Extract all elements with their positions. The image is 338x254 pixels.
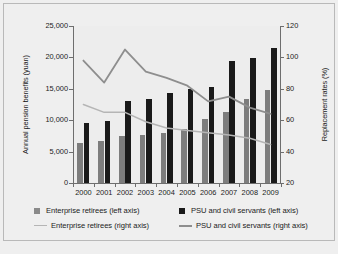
legend-swatch-square-icon: [34, 208, 40, 214]
y-tick-label-right: 100: [286, 53, 326, 60]
y-tick-label-left: 15,000: [28, 85, 68, 92]
data-line: [83, 50, 270, 114]
y-tick-label-right: 60: [286, 116, 326, 123]
legend-item-psu-bar: PSU and civil servants (left axis): [179, 206, 298, 215]
y-tick-label-left: 25,000: [28, 22, 68, 29]
y-tick-label-right: 80: [286, 85, 326, 92]
legend-label: Enterprise retirees (left axis): [46, 206, 139, 215]
y-tick-label-left: 10,000: [28, 116, 68, 123]
x-tick: [198, 183, 199, 187]
legend-label: PSU and civil servants (right axis): [196, 221, 308, 230]
legend-row-bars: Enterprise retirees (left axis) PSU and …: [34, 206, 314, 221]
x-tick: [219, 183, 220, 187]
chart-frame: Annual pension benefits (yuan) Replaceme…: [3, 3, 335, 241]
x-tick: [281, 183, 282, 187]
y-tick-label-left: 20,000: [28, 53, 68, 60]
line-group: [73, 26, 281, 183]
legend-row-lines: Enterprise retirees (right axis) PSU and…: [34, 221, 314, 236]
legend-item-enterprise-bar: Enterprise retirees (left axis): [34, 206, 139, 215]
legend-item-psu-line: PSU and civil servants (right axis): [179, 221, 308, 230]
y-tick-label-left: 5,000: [28, 148, 68, 155]
x-tick: [115, 183, 116, 187]
legend-label: Enterprise retirees (right axis): [51, 221, 149, 230]
data-line: [83, 105, 270, 145]
plot-area: 05,00010,00015,00020,00025,000 204060801…: [73, 26, 281, 183]
x-tick: [156, 183, 157, 187]
chart-legend: Enterprise retirees (left axis) PSU and …: [34, 206, 314, 236]
x-tick: [177, 183, 178, 187]
x-tick: [94, 183, 95, 187]
legend-swatch-line-icon: [34, 225, 47, 227]
y-tick-label-left: 0: [28, 179, 68, 186]
legend-label: PSU and civil servants (left axis): [191, 206, 298, 215]
x-tick: [73, 183, 74, 187]
x-tick: [135, 183, 136, 187]
x-tick: [260, 183, 261, 187]
y-tick-label-right: 120: [286, 22, 326, 29]
y-tick-label-right: 40: [286, 148, 326, 155]
y-tick-label-right: 20: [286, 179, 326, 186]
x-tick: [239, 183, 240, 187]
legend-swatch-square-icon: [179, 208, 185, 214]
x-tick-label: 2009: [256, 189, 286, 196]
legend-swatch-line-icon: [179, 225, 192, 227]
chart-figure: Annual pension benefits (yuan) Replaceme…: [0, 0, 338, 254]
legend-item-enterprise-line: Enterprise retirees (right axis): [34, 221, 149, 230]
